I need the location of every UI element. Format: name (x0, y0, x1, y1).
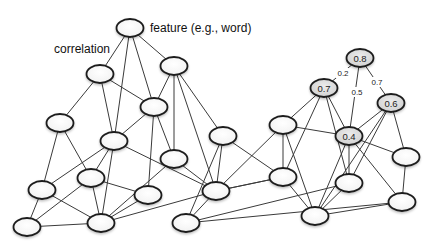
node-ellipse (117, 19, 144, 37)
node-ellipse (87, 65, 114, 83)
scored-feature-node: 0.8 (347, 49, 374, 67)
node-ellipse (47, 114, 74, 132)
feature-node (161, 57, 188, 75)
edge-weight-label: 0.7 (371, 78, 383, 87)
feature-node (161, 150, 188, 168)
feature-node (302, 207, 329, 225)
feature-node (47, 114, 74, 132)
node-ellipse (161, 150, 188, 168)
node-ellipse (161, 57, 188, 75)
node-ellipse (141, 98, 168, 116)
node-ellipse (393, 148, 420, 166)
feature-node (389, 193, 416, 211)
feature-node (141, 98, 168, 116)
feature-node (393, 148, 420, 166)
node-ellipse (203, 182, 230, 200)
feature-node (101, 132, 128, 150)
feature-node (117, 19, 144, 37)
correlation-annotation: correlation (54, 42, 110, 56)
correlation-edge (100, 74, 114, 141)
node-ellipse (336, 174, 363, 192)
correlation-network-diagram: 0.20.50.7 0.80.70.60.4 feature (e.g., wo… (0, 0, 434, 250)
node-ellipse (210, 127, 237, 145)
node-ellipse (135, 186, 162, 204)
node-ellipse (101, 132, 128, 150)
feature-node (270, 116, 297, 134)
feature-node (203, 182, 230, 200)
feature-node (173, 214, 200, 232)
scored-feature-node: 0.4 (336, 127, 363, 145)
feature-node (78, 169, 105, 187)
node-ellipse (173, 214, 200, 232)
feature-node (210, 127, 237, 145)
correlation-edge (174, 66, 216, 191)
feature-node (270, 168, 297, 186)
node-score-label: 0.6 (384, 98, 397, 109)
scored-feature-node: 0.7 (311, 79, 338, 97)
correlation-edge (130, 28, 154, 107)
edge-weight-label: 0.2 (337, 69, 349, 78)
node-ellipse (302, 207, 329, 225)
correlation-edge (174, 66, 223, 136)
node-score-label: 0.4 (342, 131, 355, 142)
feature-node (29, 181, 56, 199)
node-score-label: 0.8 (353, 53, 366, 64)
feature-node (14, 218, 41, 236)
correlation-edge (186, 202, 402, 223)
node-ellipse (88, 214, 115, 232)
feature-annotation: feature (e.g., word) (150, 21, 251, 35)
edge-weight-label: 0.5 (351, 88, 363, 97)
node-ellipse (389, 193, 416, 211)
feature-node (87, 65, 114, 83)
node-ellipse (29, 181, 56, 199)
node-ellipse (78, 169, 105, 187)
correlation-edge (148, 107, 154, 195)
node-ellipse (14, 218, 41, 236)
scored-feature-node: 0.6 (378, 94, 405, 112)
correlation-edge (315, 103, 391, 216)
node-ellipse (270, 116, 297, 134)
feature-node (88, 214, 115, 232)
node-score-label: 0.7 (317, 83, 330, 94)
feature-node (135, 186, 162, 204)
node-ellipse (270, 168, 297, 186)
feature-node (336, 174, 363, 192)
